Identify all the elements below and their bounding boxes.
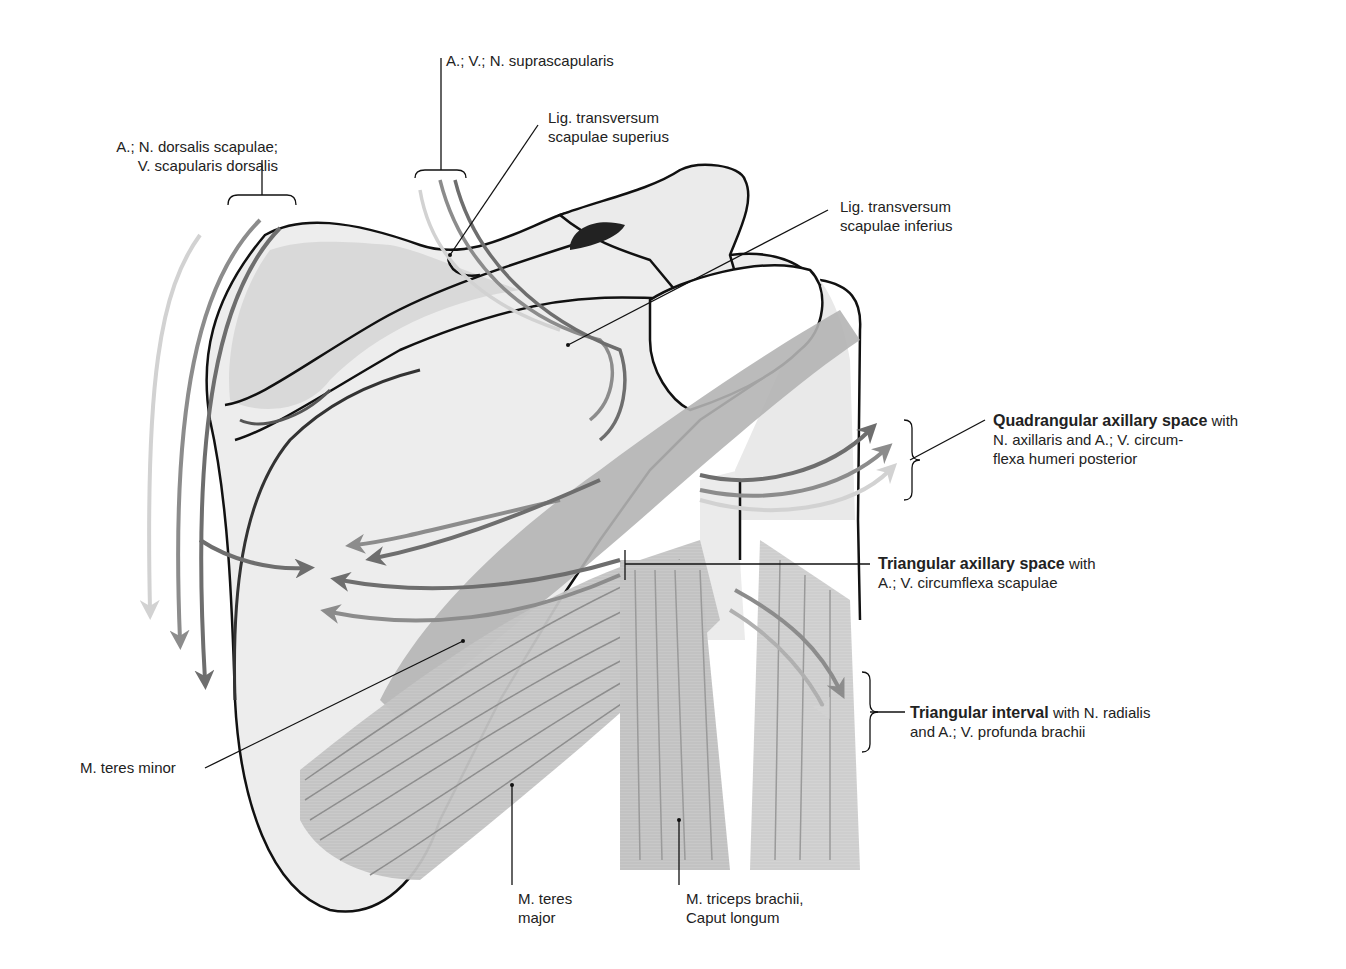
- label-lig-transversum-inferius: Lig. transversum scapulae inferius: [840, 197, 953, 235]
- label-dorsal-scapular: A.; N. dorsalis scapulae; V. scapularis …: [55, 137, 278, 175]
- label-triangular-interval: Triangular interval with N. radialis and…: [910, 703, 1150, 741]
- label-teres-major: M. teres major: [518, 889, 572, 927]
- label-suprascapular-vessels-nerve: A.; V.; N. suprascapularis: [446, 51, 614, 70]
- label-quadrangular-space: Quadrangular axillary space with N. axil…: [993, 411, 1238, 468]
- label-lig-transversum-superius: Lig. transversum scapulae superius: [548, 108, 669, 146]
- label-triangular-space: Triangular axillary space with A.; V. ci…: [878, 554, 1096, 592]
- label-triceps-long-head: M. triceps brachii, Caput longum: [686, 889, 804, 927]
- label-teres-minor: M. teres minor: [80, 758, 176, 777]
